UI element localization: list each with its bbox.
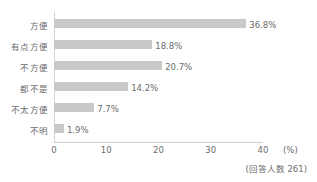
bar-value-label: 14.2% (128, 83, 158, 93)
bar-value-label: 18.8% (152, 41, 182, 51)
x-axis-tick-label: 30 (205, 145, 216, 155)
bar-row: 不太方便7.7% (54, 98, 263, 119)
x-axis-tick-label: 40 (258, 145, 269, 155)
bar (54, 61, 162, 70)
x-axis-tick-label: 0 (51, 145, 56, 155)
bar-category-label: 不明 (30, 124, 48, 136)
bar-row: 方便36.8% (54, 14, 263, 35)
bar-value-label: 7.7% (94, 104, 119, 114)
bar-value-label: 1.9% (64, 125, 89, 135)
bar-value-label: 36.8% (246, 20, 276, 30)
bar-value-label: 20.7% (162, 62, 192, 72)
plot-area: 方便36.8%有点方便18.8%不方便20.7%都不是14.2%不太方便7.7%… (54, 14, 263, 140)
bar-category-label: 不方便 (20, 61, 48, 73)
x-axis-tick-label: 20 (153, 145, 164, 155)
bar (54, 40, 152, 49)
bar-category-label: 不太方便 (11, 103, 48, 115)
bar (54, 103, 94, 112)
bar-row: 都不是14.2% (54, 77, 263, 98)
bar (54, 19, 246, 28)
x-axis-tick-labels: 010203040 (54, 145, 263, 159)
x-axis-line (54, 142, 263, 143)
bar-category-label: 有点方便 (11, 40, 48, 52)
x-axis-tick-label: 10 (101, 145, 112, 155)
bar-row: 不明1.9% (54, 119, 263, 140)
x-axis-unit-label: (%) (283, 145, 298, 155)
bar (54, 82, 128, 91)
bar-chart-figure: 方便36.8%有点方便18.8%不方便20.7%都不是14.2%不太方便7.7%… (0, 0, 317, 182)
bar-category-label: 方便 (30, 19, 48, 31)
chart-footnote: (回答人数 261) (245, 162, 307, 174)
bar (54, 124, 64, 133)
bar-row: 不方便20.7% (54, 56, 263, 77)
bar-category-label: 都不是 (20, 82, 48, 94)
bar-row: 有点方便18.8% (54, 35, 263, 56)
